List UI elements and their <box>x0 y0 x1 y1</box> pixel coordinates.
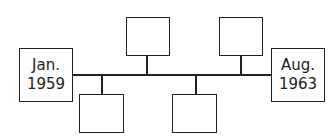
event-stem-top-1 <box>146 55 148 75</box>
start-month: Jan. <box>32 56 60 75</box>
end-month: Aug. <box>281 56 315 75</box>
event-stem-top-2 <box>240 55 242 75</box>
start-date-box: Jan. 1959 <box>19 48 73 102</box>
event-box-top-2[interactable] <box>219 17 263 56</box>
event-box-bottom-2[interactable] <box>172 94 217 133</box>
start-year: 1959 <box>27 75 65 94</box>
event-box-top-1[interactable] <box>126 17 170 56</box>
event-box-bottom-1[interactable] <box>79 94 124 133</box>
end-date-box: Aug. 1963 <box>271 48 325 102</box>
end-year: 1963 <box>279 75 317 94</box>
event-stem-bottom-1 <box>101 74 103 94</box>
event-stem-bottom-2 <box>195 74 197 94</box>
